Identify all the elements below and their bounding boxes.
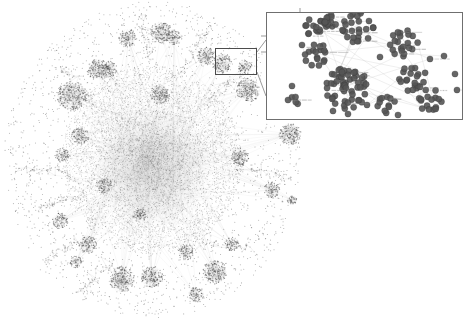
selection-rectangle[interactable] (215, 48, 257, 75)
network-figure (0, 0, 474, 320)
magnified-inset-frame[interactable] (266, 12, 463, 120)
figure-caption (18, 296, 158, 306)
